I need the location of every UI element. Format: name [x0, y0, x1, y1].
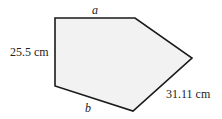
label-bottom-side-b: b [85, 101, 91, 115]
label-left-side: 25.5 cm [10, 45, 49, 59]
pentagon-diagram: a 25.5 cm b 31.11 cm [0, 0, 222, 119]
label-top-side-a: a [92, 3, 98, 17]
label-right-side: 31.11 cm [166, 87, 211, 101]
